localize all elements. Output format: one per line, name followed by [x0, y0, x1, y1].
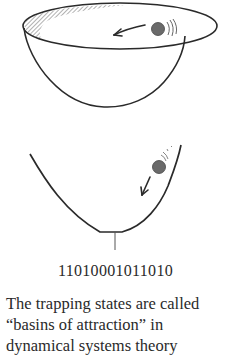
bowl-inner-shading	[24, 5, 125, 40]
motion-lines-icon	[167, 19, 177, 36]
binary-state-string: 11010001011010	[0, 262, 231, 280]
bowl-rim	[23, 3, 217, 49]
figure-caption: The trapping states are called “basins o…	[6, 293, 231, 356]
bowl-body	[24, 28, 185, 107]
caption-line-1: The trapping states are called	[6, 293, 231, 314]
diagram-canvas	[0, 0, 231, 260]
basin-diagram	[30, 145, 181, 250]
caption-line-2: “basins of attraction” in	[6, 314, 231, 335]
arrow-down-left-icon	[141, 177, 150, 195]
ball-icon	[152, 23, 165, 36]
arrow-left-icon	[114, 25, 145, 36]
basins-of-attraction-figure: 11010001011010 The trapping states are c…	[0, 0, 231, 364]
bowl-diagram	[23, 3, 217, 107]
ball-icon	[153, 161, 166, 174]
caption-line-3: dynamical systems theory	[6, 335, 231, 356]
basin-curve	[30, 145, 181, 232]
motion-lines-icon	[161, 146, 172, 161]
